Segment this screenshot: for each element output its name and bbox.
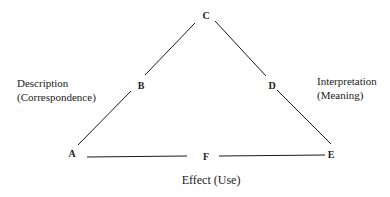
bottom-side-label: Effect (Use) [182, 173, 241, 187]
edge-f-e [219, 155, 325, 156]
right-label-line1: Interpretation [317, 74, 377, 88]
edge-a-f [87, 156, 187, 157]
triangle-diagram: A B C D E F Description (Correspondence)… [0, 0, 390, 197]
edge-c-d [215, 21, 266, 76]
node-a: A [68, 149, 75, 159]
edge-c-b [145, 23, 195, 75]
right-label-line2: (Meaning) [317, 88, 377, 102]
node-c: C [202, 11, 209, 21]
right-side-label: Interpretation (Meaning) [317, 74, 377, 102]
left-label-line2: (Correspondence) [17, 90, 96, 104]
left-side-label: Description (Correspondence) [17, 76, 96, 104]
node-f: F [203, 152, 209, 162]
left-label-line1: Description [17, 76, 96, 90]
node-b: B [138, 81, 145, 91]
node-d: D [268, 81, 275, 91]
node-e: E [328, 150, 335, 160]
